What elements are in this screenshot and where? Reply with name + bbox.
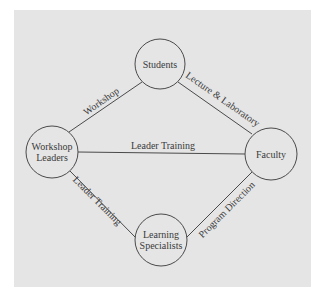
node-learning-specialists-label-line2: Specialists xyxy=(140,240,183,251)
node-workshop-leaders: Workshop Leaders xyxy=(26,126,78,178)
relationship-diagram: Workshop Lecture & Laboratory Leader Tra… xyxy=(0,0,327,301)
node-students: Students xyxy=(135,39,185,89)
node-faculty: Faculty xyxy=(245,128,297,180)
node-workshop-leaders-label-line2: Leaders xyxy=(36,152,68,163)
node-learning-specialists: Learning Specialists xyxy=(135,214,187,266)
node-workshop-leaders-label-line1: Workshop xyxy=(32,141,73,152)
node-faculty-label: Faculty xyxy=(256,149,286,160)
edge-label-leader-training-horizontal: Leader Training xyxy=(131,140,195,151)
node-learning-specialists-label-line1: Learning xyxy=(143,229,179,240)
node-students-label: Students xyxy=(143,59,178,70)
